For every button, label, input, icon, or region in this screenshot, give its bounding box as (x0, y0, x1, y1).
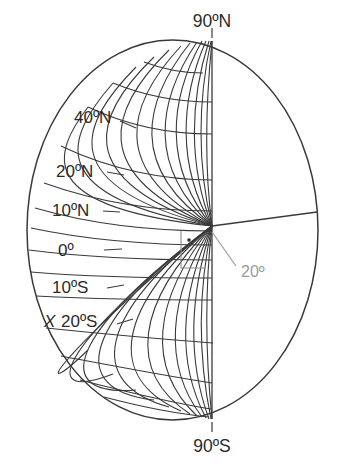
equator-right-segment (212, 212, 317, 226)
label-north-pole: 90ºN (193, 11, 232, 31)
label-lat-20s: 20ºS (61, 312, 97, 331)
angle-vertex-dot (187, 238, 191, 242)
label-lat-10s: 10ºS (52, 278, 88, 297)
globe-svg: 90ºN 90ºS 40ºN 20ºN 10ºN 0º 10ºS X 20ºS … (0, 0, 348, 464)
point-marker-x: X (43, 312, 56, 331)
label-south-pole: 90ºS (193, 436, 231, 456)
label-lat-40n: 40ºN (74, 108, 111, 127)
label-lat-20n: 20ºN (56, 162, 93, 181)
globe-diagram: 90ºN 90ºS 40ºN 20ºN 10ºN 0º 10ºS X 20ºS … (0, 0, 348, 464)
label-lat-10n: 10ºN (52, 201, 89, 220)
label-lat-0: 0º (58, 241, 74, 260)
label-angle-20deg: 20º (241, 263, 265, 280)
angle-leader-line (212, 232, 236, 266)
